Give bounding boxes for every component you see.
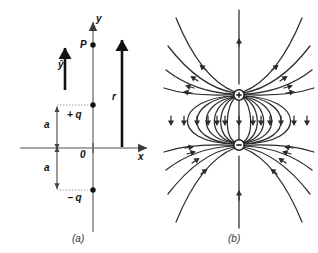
field-line-arrow-lower-right-3: [284, 152, 291, 154]
panel-b-field-lines: (b): [160, 0, 318, 253]
field-line-loop-right-1: [242, 97, 251, 143]
point-p-label: P: [80, 40, 87, 50]
field-line-lower-right-4: [244, 145, 314, 152]
field-line-arrow-lower-right-2: [280, 159, 286, 163]
field-line-arrow-upper-right-2: [280, 77, 286, 81]
field-line-arrow-upper-right-3: [284, 86, 291, 88]
separation-upper-a-label: a: [44, 120, 50, 130]
positive-charge-label: + q: [67, 110, 82, 120]
unit-vector-y-hat-label: ŷ: [58, 60, 64, 70]
field-line-lower-right-2: [243, 147, 310, 194]
x-axis-label: x: [138, 152, 144, 162]
panel-b-caption: (b): [228, 233, 240, 244]
position-vector-r-label: r: [112, 92, 116, 102]
field-line-group: [164, 10, 314, 228]
figure-container: y x P ŷ r + q − q a a 0 (a): [0, 0, 318, 253]
field-line-arrow-upper-left-2: [192, 77, 198, 81]
field-line-lower-left-4: [164, 145, 234, 152]
field-line-upper-left-2: [168, 46, 235, 93]
negative-charge-marker: [90, 187, 95, 192]
field-line-upper-right-4: [244, 88, 314, 95]
separation-lower-a-label: a: [44, 163, 50, 173]
field-line-lower-left-2: [168, 147, 235, 194]
panel-a-caption: (a): [72, 233, 84, 244]
positive-charge-marker: [90, 102, 95, 107]
y-axis-label: y: [96, 14, 102, 24]
field-line-loop-left-1: [227, 97, 236, 143]
field-line-arrow-lower-left-2: [192, 159, 198, 163]
field-line-upper-left-4: [164, 88, 234, 95]
panel-a-drawing: [0, 0, 160, 253]
origin-label: 0: [80, 150, 86, 160]
field-line-arrow-upper-left-3: [187, 86, 194, 88]
field-line-arrow-lower-left-3: [187, 152, 194, 154]
field-line-upper-right-2: [243, 46, 310, 93]
panel-b-drawing: [160, 0, 318, 253]
point-p-marker: [90, 42, 95, 47]
panel-a-dipole-geometry: y x P ŷ r + q − q a a 0 (a): [0, 0, 160, 253]
negative-charge-label: − q: [67, 193, 82, 203]
